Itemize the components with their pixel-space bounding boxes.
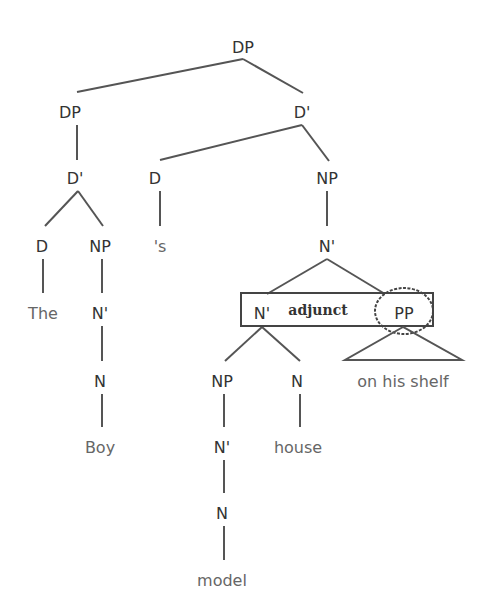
- tree-edge: [45, 191, 78, 226]
- tree-edge: [77, 59, 243, 92]
- terminal-word-house: house: [274, 438, 322, 457]
- node-label-np-right: NP: [316, 169, 338, 188]
- node-label-dbar-left: D': [67, 169, 84, 188]
- terminal-word-model: model: [197, 571, 247, 590]
- terminal-word-on-his-shelf: on his shelf: [357, 372, 449, 391]
- terminal-word-poss-s: 's: [154, 237, 167, 256]
- node-label-dbar-top: D': [294, 103, 311, 122]
- tree-edge: [78, 191, 103, 226]
- tree-edge: [243, 59, 303, 93]
- node-label-nbar-inner: N': [254, 304, 270, 323]
- node-label-np-boy: NP: [89, 237, 111, 256]
- terminal-word-the: The: [27, 304, 58, 323]
- node-label-n-boy: N: [94, 372, 106, 391]
- tree-edge: [160, 125, 302, 160]
- node-label-n-house: N: [291, 372, 303, 391]
- node-label-dp-spec: DP: [59, 103, 81, 122]
- adjunct-label: adjunct: [288, 302, 348, 318]
- tree-edge: [327, 259, 385, 294]
- tree-edge: [267, 259, 327, 294]
- tree-edge: [225, 327, 262, 361]
- tree-edge: [262, 327, 300, 361]
- node-label-d-poss: D: [149, 169, 161, 188]
- node-label-nbar-model: N': [214, 438, 230, 457]
- adjunct-annotation: adjunct: [241, 288, 462, 360]
- node-label-nbar-boy: N': [92, 304, 108, 323]
- node-label-np-model: NP: [211, 372, 233, 391]
- node-label-n-model: N: [216, 504, 228, 523]
- tree-edge: [302, 125, 329, 161]
- node-label-dp-root: DP: [232, 38, 254, 57]
- node-label-nbar-top: N': [319, 237, 335, 256]
- node-label-d-the: D: [36, 237, 48, 256]
- node-label-pp: PP: [394, 304, 414, 323]
- syntax-tree-diagram: adjunct DPDPD'D'DNPDNP'sN'TheN'N'PPNNPNo…: [0, 0, 487, 614]
- pp-triangle: [345, 327, 462, 360]
- tree-labels: DPDPD'D'DNPDNP'sN'TheN'N'PPNNPNon his sh…: [27, 38, 449, 590]
- terminal-word-boy: Boy: [85, 438, 115, 457]
